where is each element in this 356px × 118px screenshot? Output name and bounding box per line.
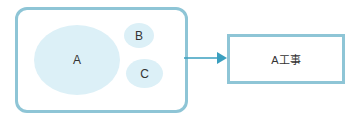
target-node: A工事 bbox=[227, 34, 345, 84]
node-c: C bbox=[126, 59, 163, 88]
arrow-icon bbox=[184, 50, 228, 66]
node-c-label: C bbox=[140, 67, 149, 81]
target-node-label: A工事 bbox=[271, 51, 300, 67]
node-b: B bbox=[124, 23, 154, 48]
node-a: A bbox=[34, 25, 120, 95]
node-a-label: A bbox=[73, 53, 81, 67]
node-b-label: B bbox=[135, 29, 143, 43]
